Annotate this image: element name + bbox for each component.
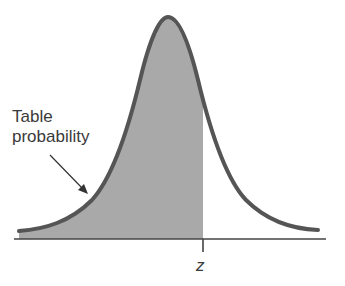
z-axis-label: z	[196, 256, 205, 276]
annotation-label-line2: probability	[12, 127, 90, 147]
annotation-arrow-shaft	[50, 155, 84, 190]
normal-curve-figure: Table probability z	[0, 0, 345, 286]
annotation-label-line1: Table	[12, 107, 53, 127]
